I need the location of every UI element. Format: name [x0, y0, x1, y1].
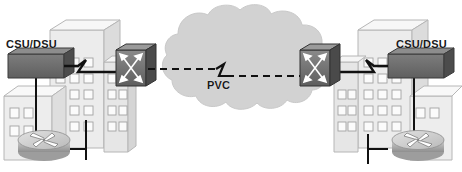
label-csu-dsu-right: CSU/DSU [396, 38, 447, 50]
label-csu-dsu-left: CSU/DSU [6, 38, 57, 50]
router-left [18, 131, 70, 162]
network-diagram: CSU/DSU CSU/DSU PVC [0, 0, 462, 172]
diagram-canvas [0, 0, 462, 172]
frame-relay-switch-right[interactable] [300, 44, 340, 86]
csu-dsu-right [388, 48, 454, 78]
frame-relay-switch-left[interactable] [116, 44, 156, 86]
label-pvc: PVC [207, 79, 230, 91]
csu-dsu-left [8, 48, 74, 78]
router-right [392, 131, 444, 162]
